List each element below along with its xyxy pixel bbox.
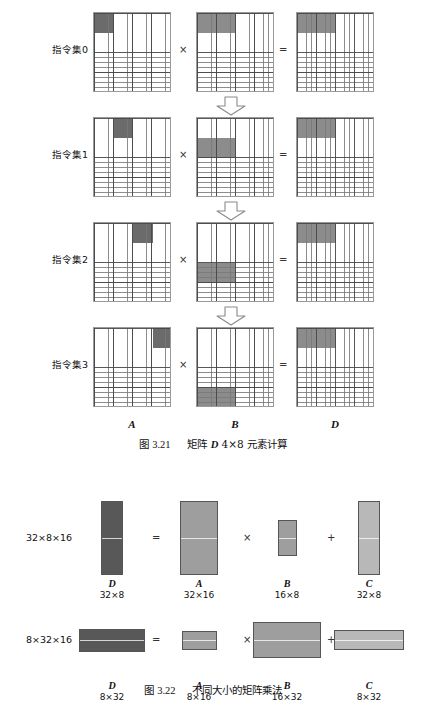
instruction-set-row: 指令集0×= [0,12,426,94]
figure-3-21-caption: 图 3.21 矩阵 D 4×8 元素计算 [0,436,426,451]
equals-operator: = [279,149,287,160]
multiply-operator: × [179,44,187,55]
multiply-operator: × [179,359,187,370]
caption-symbol: D [211,439,219,450]
matrix-grid-d [296,12,374,92]
plus-operator: + [327,532,335,543]
instruction-set-label: 指令集2 [28,252,88,266]
matrix-size-row: 32×8×16=×+D32×8A32×16B16×8C32×8 [0,480,426,576]
highlighted-block [297,223,336,243]
matrix-grid-a [93,222,171,302]
matrix-block-b [253,622,321,658]
highlighted-block [197,263,236,283]
matrix-label-a: A [112,418,152,430]
grid-minor-lines [197,223,273,301]
grid-major-lines [197,223,273,301]
highlighted-block [197,138,236,158]
matrix-grid-a [93,327,171,407]
equals-operator: = [152,634,160,645]
matrix-block-a [180,501,218,575]
figure-page: 指令集0×=指令集1×=指令集2×=指令集3×= A B D 图 3.21 矩阵… [0,0,426,706]
figure-3-21-matrix-labels: A B D [0,418,426,434]
multiply-operator: × [179,149,187,160]
instruction-set-label: 指令集3 [28,357,88,371]
matrix-size-row: 8×32×16=×+D8×32A8×16B16×32C8×32 [0,582,426,678]
equals-operator: = [279,44,287,55]
highlighted-block [197,13,236,33]
equals-operator: = [279,359,287,370]
matrix-grid-a [93,12,171,92]
matrix-label-b: B [215,418,255,430]
equals-operator: = [279,254,287,265]
matrix-block-d [79,629,145,652]
figure-3-22-caption: 图 3.22 不同大小的矩阵乘法 [0,682,426,697]
matrix-block-a [182,631,217,650]
matrix-grid-a [93,117,171,197]
instruction-set-row: 指令集3×= [0,327,426,409]
times-operator: × [243,532,251,543]
highlighted-block [94,13,114,33]
instruction-set-label: 指令集1 [28,147,88,161]
matrix-grid-d [296,222,374,302]
highlighted-block [297,13,336,33]
down-arrow-icon [214,96,248,116]
caption-text: 不同大小的矩阵乘法 [192,684,282,696]
caption-text-after: 4×8 元素计算 [222,438,288,450]
caption-prefix: 图 [144,684,154,696]
highlighted-block [114,118,134,138]
down-arrow-icon [214,306,248,326]
matrix-block-d [101,501,123,575]
instruction-set-label: 指令集0 [28,42,88,56]
highlighted-block [297,118,336,138]
instruction-set-row: 指令集1×= [0,117,426,199]
grid-minor-lines [94,223,170,301]
highlighted-block [133,223,153,243]
caption-prefix: 图 [139,438,149,450]
equation-size-label: 32×8×16 [26,532,72,543]
matrix-grid-b [196,222,274,302]
highlighted-block [297,328,336,348]
equals-operator: = [152,532,160,543]
matrix-grid-b [196,12,274,92]
matrix-block-c [334,630,404,650]
highlighted-block [153,328,172,348]
caption-number: 3.22 [157,685,175,696]
matrix-grid-b [196,327,274,407]
caption-number: 3.21 [152,439,170,450]
matrix-grid-b [196,117,274,197]
matrix-block-b [278,520,297,556]
equation-size-label: 8×32×16 [26,634,72,645]
times-operator: × [243,634,251,645]
matrix-grid-d [296,117,374,197]
instruction-set-row: 指令集2×= [0,222,426,304]
grid-major-lines [94,223,170,301]
highlighted-block [197,388,236,407]
matrix-grid-d [296,327,374,407]
multiply-operator: × [179,254,187,265]
caption-text-before: 矩阵 [187,438,207,450]
figure-3-22: 32×8×16=×+D32×8A32×16B16×8C32×88×32×16=×… [0,462,426,706]
matrix-label-d: D [315,418,355,430]
matrix-block-c [358,501,380,575]
figure-3-21: 指令集0×=指令集1×=指令集2×=指令集3×= [0,0,426,455]
down-arrow-icon [214,201,248,221]
